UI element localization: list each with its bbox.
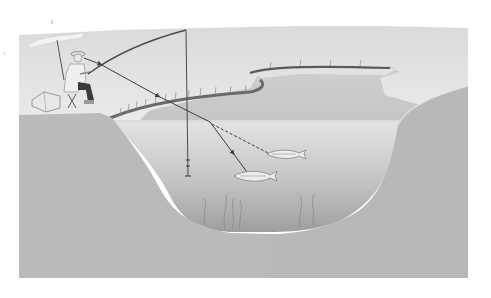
fishing-diagram <box>0 0 491 298</box>
stray-mark <box>4 52 5 55</box>
